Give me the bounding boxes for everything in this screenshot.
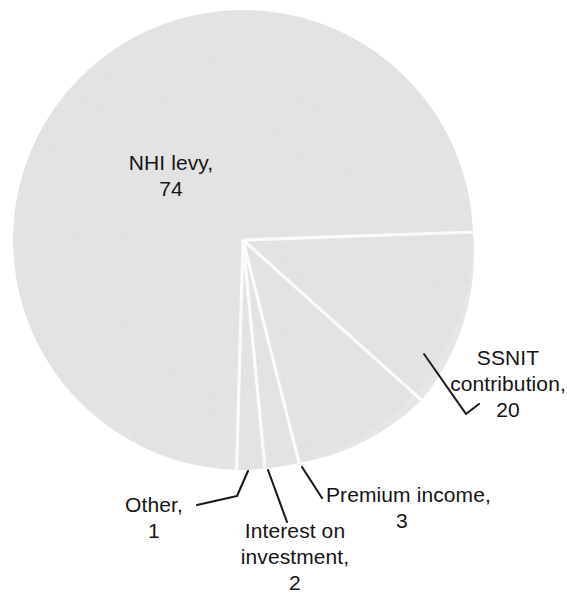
- slice-label-ssnit-contribution: SSNIT contribution, 20: [449, 345, 567, 423]
- slice-label-premium-value: 3: [326, 508, 478, 534]
- slice-label-interest-name-line2: investment,: [229, 544, 361, 570]
- slice-label-premium-name: Premium income,: [326, 482, 494, 508]
- slice-label-ssnit-name-line2: contribution,: [449, 371, 567, 397]
- slice-label-other-value: 1: [108, 518, 200, 544]
- slice-label-other-name: Other,: [108, 492, 200, 518]
- slice-label-nhi-levy-name: NHI levy,: [107, 150, 235, 176]
- leader-line-premium: [302, 467, 322, 498]
- leader-line-other: [197, 471, 248, 505]
- slice-label-ssnit-value: 20: [449, 397, 567, 423]
- slice-label-nhi-levy-value: 74: [107, 176, 235, 202]
- slice-label-premium-income: Premium income, 3: [326, 482, 494, 534]
- leader-line-interest: [268, 470, 287, 522]
- slice-label-interest-value: 2: [229, 570, 361, 596]
- slice-label-nhi-levy: NHI levy, 74: [107, 150, 235, 202]
- slice-label-ssnit-name-line1: SSNIT: [449, 345, 567, 371]
- slice-label-other: Other, 1: [108, 492, 200, 544]
